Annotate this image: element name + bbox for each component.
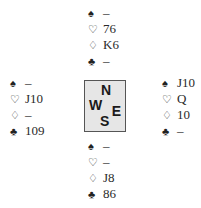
club-icon: ♣ [88,186,101,202]
east-spades: ♠J10 [162,75,195,91]
heart-icon: ♡ [88,154,101,170]
north-diamonds: ♢K6 [88,37,119,53]
spade-icon: ♠ [162,75,175,91]
west-clubs: ♣109 [10,123,45,139]
north-spades: ♠– [88,5,119,21]
diamond-icon: ♢ [162,107,175,123]
east-hand: ♠J10 ♡Q ♢10 ♣– [162,75,195,139]
heart-icon: ♡ [162,91,175,107]
spade-icon: ♠ [88,5,101,21]
diamond-icon: ♢ [88,170,101,186]
north-hearts: ♡76 [88,21,119,37]
compass-west: W [89,97,102,113]
north-hand: ♠– ♡76 ♢K6 ♣– [88,5,119,69]
south-hearts: ♡– [88,154,116,170]
spade-icon: ♠ [10,75,23,91]
east-clubs: ♣– [162,123,195,139]
east-diamonds: ♢10 [162,107,195,123]
club-icon: ♣ [88,53,101,69]
north-clubs: ♣– [88,53,119,69]
east-hearts: ♡Q [162,91,195,107]
west-spades: ♠– [10,75,45,91]
south-diamonds: ♢J8 [88,170,116,186]
diamond-icon: ♢ [10,107,23,123]
west-diamonds: ♢– [10,107,45,123]
heart-icon: ♡ [88,21,101,37]
club-icon: ♣ [10,123,23,139]
compass-east: E [112,103,121,119]
west-hearts: ♡J10 [10,91,45,107]
spade-icon: ♠ [88,138,101,154]
club-icon: ♣ [162,123,175,139]
diamond-icon: ♢ [88,37,101,53]
south-spades: ♠– [88,138,116,154]
compass-box: N W E S [84,80,126,132]
compass-north: N [101,82,111,98]
compass-south: S [100,113,109,129]
south-clubs: ♣86 [88,186,116,202]
heart-icon: ♡ [10,91,23,107]
west-hand: ♠– ♡J10 ♢– ♣109 [10,75,45,139]
south-hand: ♠– ♡– ♢J8 ♣86 [88,138,116,202]
